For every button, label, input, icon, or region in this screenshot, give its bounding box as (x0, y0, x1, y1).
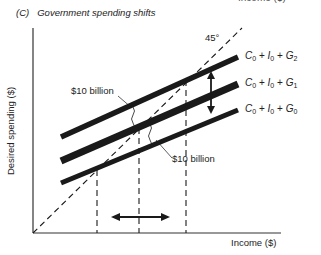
upper-shift-bracket (132, 107, 135, 129)
g-subscript: 1 (293, 82, 297, 89)
upper-shift-annotation: $10 billion (71, 85, 114, 96)
g-subscript: 0 (293, 108, 297, 115)
c-subscript: 0 (252, 55, 256, 62)
curve-label-g0: C0 + I0 + G0 (245, 103, 297, 115)
lower-shift-bracket (149, 124, 152, 146)
diagram-canvas (0, 0, 321, 255)
45-degree-label: 45° (205, 32, 219, 43)
c-subscript: 0 (252, 108, 256, 115)
g-subscript: 2 (293, 55, 297, 62)
curve-label-g2: C0 + I0 + G2 (245, 50, 297, 62)
i-subscript: 0 (270, 82, 274, 89)
i-subscript: 0 (270, 108, 274, 115)
horizontal-shift-arrow-icon (111, 213, 170, 221)
curve-label-g1: C0 + I0 + G1 (245, 77, 297, 89)
c-subscript: 0 (252, 82, 256, 89)
lower-shift-annotation: $10 billion (172, 153, 215, 164)
i-subscript: 0 (270, 55, 274, 62)
